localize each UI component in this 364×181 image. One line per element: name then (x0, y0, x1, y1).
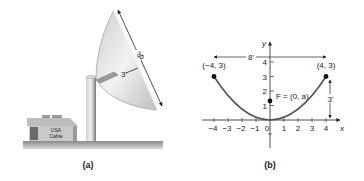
svg-text:3: 3 (263, 73, 268, 82)
focus-point (268, 99, 273, 104)
point-right (324, 74, 329, 79)
svg-text:−4: −4 (208, 124, 218, 133)
figure-canvas: USA Cable 8' 3' (a) (0, 0, 364, 181)
point-left (212, 74, 217, 79)
right-point-label: (4, 3) (317, 61, 336, 70)
panel-a-caption: (a) (83, 160, 94, 170)
y-tick-labels: 1 2 3 4 (263, 58, 268, 111)
ground (23, 141, 163, 149)
y-axis-label: y (261, 39, 267, 48)
svg-text:−1: −1 (250, 124, 260, 133)
svg-text:2: 2 (296, 124, 301, 133)
panel-a-illustration: USA Cable 8' 3' (a) (23, 10, 163, 170)
satellite-dish (96, 10, 158, 110)
dish-pole (86, 77, 96, 141)
x-axis-label: x (339, 124, 345, 133)
panel-b-graph: −4 −3 −2 −1 0 1 2 3 4 x 1 2 3 4 y (202, 39, 345, 170)
width-label: 8' (248, 53, 254, 62)
dish-depth-label: 3' (121, 70, 127, 79)
svg-text:4: 4 (263, 58, 268, 67)
svg-text:0: 0 (265, 124, 270, 133)
svg-text:3: 3 (310, 124, 315, 133)
svg-text:−2: −2 (236, 124, 246, 133)
focus-label: F = (0, a) (276, 92, 309, 101)
height-label: 3' (328, 95, 334, 104)
x-tick-labels: −4 −3 −2 −1 0 1 2 3 4 (208, 124, 328, 133)
building-sign-line2: Cable (49, 133, 62, 139)
left-point-label: (−4, 3) (202, 61, 226, 70)
svg-text:1: 1 (282, 124, 287, 133)
svg-text:−3: −3 (222, 124, 232, 133)
svg-text:4: 4 (324, 124, 329, 133)
svg-text:1: 1 (263, 102, 268, 111)
cable-building: USA Cable (27, 115, 78, 141)
svg-text:2: 2 (263, 87, 268, 96)
panel-b-caption: (b) (264, 160, 276, 170)
